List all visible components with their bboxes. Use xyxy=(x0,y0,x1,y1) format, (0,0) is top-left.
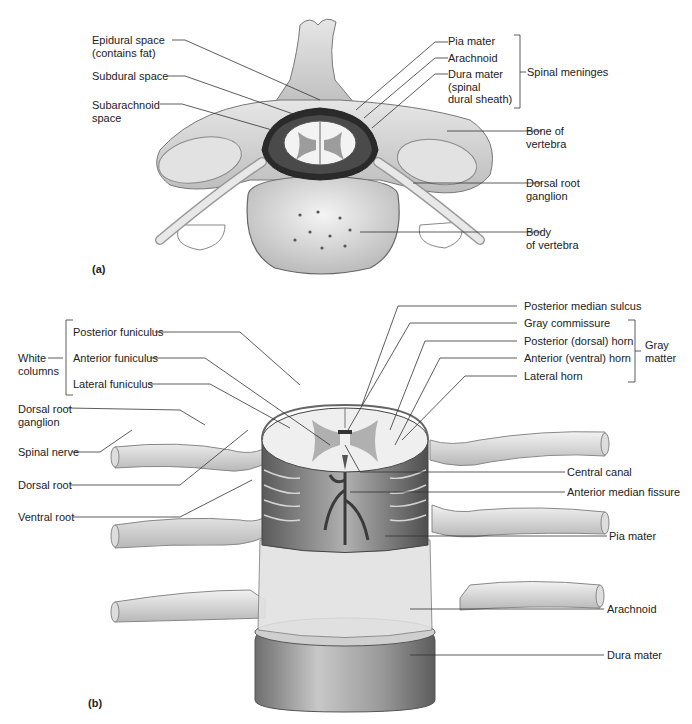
label-central-canal: Central canal xyxy=(567,466,632,479)
label-arachnoid-a: Arachnoid xyxy=(448,52,498,65)
label-lateral-horn: Lateral horn xyxy=(524,370,583,383)
label-posterior-horn: Posterior (dorsal) horn xyxy=(524,335,633,348)
label-dorsal-root: Dorsal root xyxy=(18,479,72,492)
panel-b-drawing xyxy=(111,405,609,712)
label-arachnoid-b: Arachnoid xyxy=(607,603,657,616)
label-dorsal-root-ganglion-b: Dorsal root ganglion xyxy=(18,403,72,428)
label-white-columns: White columns xyxy=(18,352,59,377)
panel-a-drawing xyxy=(154,19,492,274)
label-dura-mater-a: Dura mater (spinal dural sheath) xyxy=(448,68,512,106)
label-posterior-median-sulcus: Posterior median sulcus xyxy=(524,300,641,313)
label-pia-mater-a: Pia mater xyxy=(448,35,495,48)
label-pia-mater-b: Pia mater xyxy=(609,530,656,543)
label-bone-of-vertebra: Bone of vertebra xyxy=(526,125,566,150)
label-subdural-space: Subdural space xyxy=(92,70,168,83)
panel-b-tag: (b) xyxy=(88,697,102,710)
label-spinal-nerve: Spinal nerve xyxy=(18,446,79,459)
label-anterior-horn: Anterior (ventral) horn xyxy=(524,352,631,365)
label-gray-commissure: Gray commissure xyxy=(524,317,610,330)
label-body-of-vertebra: Body of vertebra xyxy=(526,226,579,251)
label-dura-mater-b: Dura mater xyxy=(607,649,662,662)
label-dorsal-root-ganglion-a: Dorsal root ganglion xyxy=(526,177,580,202)
label-epidural-space: Epidural space (contains fat) xyxy=(92,34,165,59)
label-anterior-median-fissure: Anterior median fissure xyxy=(567,486,680,499)
label-subarachnoid-space: Subarachnoid space xyxy=(92,99,160,124)
label-anterior-funiculus: Anterior funiculus xyxy=(73,352,158,365)
label-posterior-funiculus: Posterior funiculus xyxy=(73,326,164,339)
label-spinal-meninges: Spinal meninges xyxy=(527,66,608,79)
label-lateral-funiculus: Lateral funiculus xyxy=(73,378,153,391)
label-gray-matter: Gray matter xyxy=(645,339,676,364)
spinal-cord-anatomy-figure: Epidural space (contains fat) Subdural s… xyxy=(0,0,692,724)
label-ventral-root: Ventral root xyxy=(18,511,74,524)
panel-a-tag: (a) xyxy=(92,263,105,276)
